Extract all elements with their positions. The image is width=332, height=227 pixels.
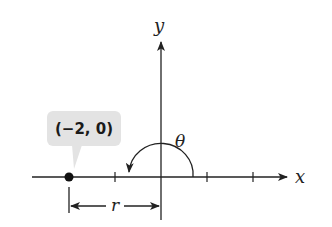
distance-r: r xyxy=(69,187,159,215)
x-axis-label: x xyxy=(295,166,305,187)
y-axis-label: y xyxy=(153,15,165,36)
point-label: (−2, 0) xyxy=(55,120,113,138)
r-label: r xyxy=(111,195,120,215)
y-axis: y xyxy=(153,15,165,220)
point-callout: (−2, 0) xyxy=(47,111,121,169)
theta-label: θ xyxy=(175,131,185,151)
polar-diagram: x y θ (−2, 0) r xyxy=(0,0,332,227)
point-marker xyxy=(65,173,74,182)
